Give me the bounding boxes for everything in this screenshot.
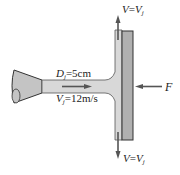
jet-velocity-label: Vj=12m/s bbox=[56, 93, 98, 106]
top-velocity-label: V=Vj bbox=[122, 4, 144, 17]
force-label: F bbox=[165, 81, 172, 93]
diagram-canvas bbox=[0, 0, 180, 175]
flat-plate bbox=[122, 31, 133, 140]
bottom-velocity-label: V=Vj bbox=[123, 153, 145, 166]
force-arrow bbox=[135, 84, 162, 89]
jet-stream bbox=[42, 30, 122, 140]
diameter-label: Dj=5cm bbox=[56, 68, 91, 81]
nozzle bbox=[12, 70, 42, 103]
